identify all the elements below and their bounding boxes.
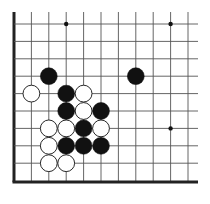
white-stone[interactable] — [40, 155, 57, 172]
black-stone[interactable] — [58, 103, 75, 120]
black-stone[interactable] — [93, 137, 110, 154]
go-board[interactable] — [0, 0, 210, 204]
star-point-icon — [168, 126, 172, 130]
black-stone[interactable] — [127, 68, 144, 85]
black-stone[interactable] — [75, 137, 92, 154]
white-stone[interactable] — [58, 155, 75, 172]
star-point-icon — [168, 22, 172, 26]
white-stone[interactable] — [23, 85, 40, 102]
white-stone[interactable] — [40, 137, 57, 154]
white-stone[interactable] — [58, 120, 75, 137]
white-stone[interactable] — [75, 85, 92, 102]
white-stone[interactable] — [40, 120, 57, 137]
black-stone[interactable] — [40, 68, 57, 85]
white-stone[interactable] — [93, 120, 110, 137]
star-point-icon — [64, 22, 68, 26]
black-stone[interactable] — [93, 103, 110, 120]
board-grid — [13, 12, 199, 182]
black-stone[interactable] — [75, 120, 92, 137]
black-stone[interactable] — [58, 137, 75, 154]
white-stone[interactable] — [75, 103, 92, 120]
black-stone[interactable] — [58, 85, 75, 102]
